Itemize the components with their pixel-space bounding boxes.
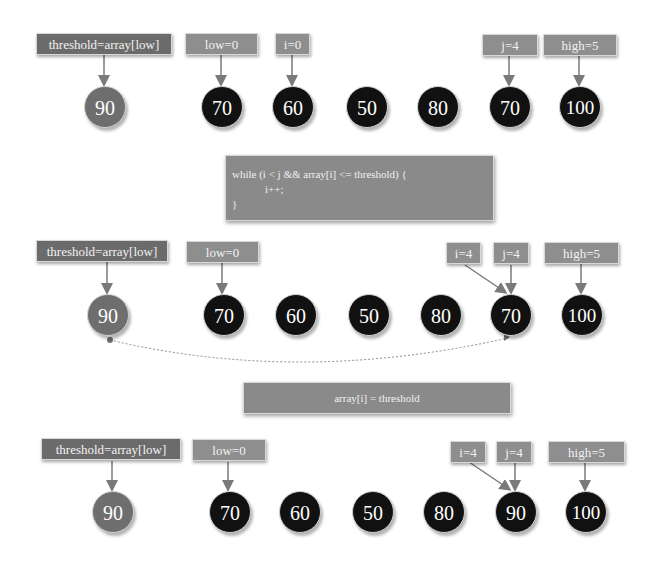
array-node-5: 70 xyxy=(489,86,531,128)
array-node-6: 100 xyxy=(561,294,603,336)
code-line-3: } xyxy=(232,197,487,212)
j-pointer-label: j=4 xyxy=(493,242,529,264)
array-node-2: 60 xyxy=(272,86,314,128)
array-node-0: 90 xyxy=(84,86,126,128)
threshold-label: threshold=array[low] xyxy=(36,240,168,262)
array-node-4: 80 xyxy=(417,86,459,128)
i-pointer-label: i=4 xyxy=(446,242,481,264)
j-pointer-label: j=4 xyxy=(496,441,532,463)
while-loop-code-box: while (i < j && array[i] <= threshold) {… xyxy=(225,155,494,221)
high-pointer-label: high=5 xyxy=(543,34,617,56)
low-pointer-label: low=0 xyxy=(192,439,266,461)
code-line-1: while (i < j && array[i] <= threshold) { xyxy=(232,167,487,182)
array-node-2: 60 xyxy=(275,294,317,336)
array-node-4: 80 xyxy=(420,294,462,336)
assignment-code-text: array[i] = threshold xyxy=(334,392,420,404)
step1-arrows xyxy=(104,55,579,84)
j-pointer-label: j=4 xyxy=(482,34,538,56)
threshold-label: threshold=array[low] xyxy=(36,33,172,55)
array-node-4: 80 xyxy=(423,491,465,533)
array-node-3: 50 xyxy=(346,86,388,128)
array-node-6: 100 xyxy=(565,491,607,533)
i-pointer-label: i=4 xyxy=(450,441,486,463)
array-node-1: 70 xyxy=(209,491,251,533)
connector-layer xyxy=(0,0,659,563)
low-pointer-label: low=0 xyxy=(186,241,259,263)
threshold-label: threshold=array[low] xyxy=(41,438,181,460)
code-line-2: i++; xyxy=(232,182,487,197)
array-node-1: 70 xyxy=(203,294,245,336)
array-node-2: 60 xyxy=(279,491,321,533)
array-node-1: 70 xyxy=(201,86,243,128)
array-node-3: 50 xyxy=(352,491,394,533)
array-node-6: 100 xyxy=(559,86,601,128)
i-pointer-label: i=0 xyxy=(275,33,310,55)
array-node-5: 70 xyxy=(490,294,532,336)
array-node-0: 90 xyxy=(92,491,134,533)
low-pointer-label: low=0 xyxy=(185,33,258,55)
high-pointer-label: high=5 xyxy=(544,242,619,264)
high-pointer-label: high=5 xyxy=(548,441,625,463)
array-node-0: 90 xyxy=(87,294,129,336)
array-node-5: 90 xyxy=(495,491,537,533)
array-node-3: 50 xyxy=(348,294,390,336)
step3-arrows xyxy=(112,461,585,489)
assignment-code-box: array[i] = threshold xyxy=(243,382,511,414)
